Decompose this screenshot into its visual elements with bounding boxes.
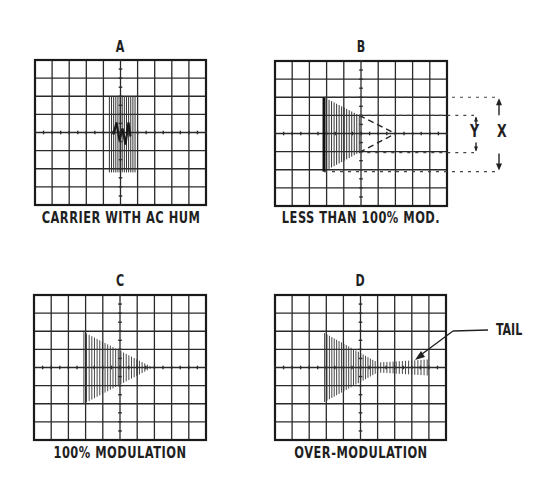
scope-panel-a xyxy=(35,60,206,205)
x-dimension-label: X xyxy=(497,121,507,141)
y-dimension-label: Y xyxy=(470,121,479,141)
scope-panel-b xyxy=(275,61,502,206)
panel-d-letter: D xyxy=(344,272,377,290)
tail-label: TAIL xyxy=(496,321,522,339)
waveform-full xyxy=(84,332,153,404)
waveform-hum xyxy=(109,96,135,172)
waveform-over xyxy=(325,330,488,402)
panel-a-caption: CARRIER WITH AC HUM xyxy=(23,209,220,227)
panel-a-letter: A xyxy=(104,38,137,56)
panel-c-caption: 100% MODULATION xyxy=(22,444,219,462)
panel-c-letter: C xyxy=(104,272,137,290)
panel-d-caption: OVER-MODULATION xyxy=(263,444,460,462)
panel-b-letter: B xyxy=(345,38,378,56)
modulation-patterns-figure: A B C D CARRIER WITH AC HUM LESS THAN 10… xyxy=(0,0,557,491)
oscilloscope-grids xyxy=(0,0,557,491)
scope-panel-d xyxy=(275,295,488,440)
scope-panel-c xyxy=(34,295,206,440)
panel-b-caption: LESS THAN 100% MOD. xyxy=(263,209,460,227)
